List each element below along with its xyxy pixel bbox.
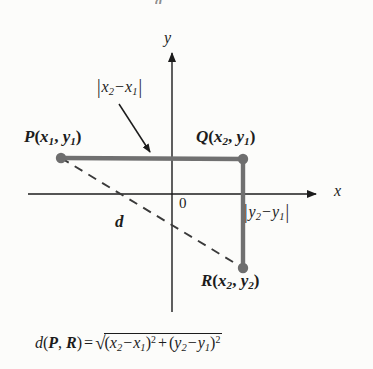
formula-d: d <box>35 334 43 351</box>
point-p-name: P <box>24 127 34 146</box>
y-axis-label: y <box>164 30 171 46</box>
point-marker-q <box>238 154 248 164</box>
point-label-q: Q(x2, y1) <box>196 128 255 147</box>
hypotenuse-dashed-segment <box>61 158 243 268</box>
point-marker-p <box>56 153 66 163</box>
delta-x-right-bar: | <box>137 77 143 97</box>
delta-x-minus: − <box>114 78 125 95</box>
coordinate-diagram <box>0 0 373 369</box>
formula-comma: , <box>58 334 66 351</box>
point-r-close-paren: ) <box>254 271 260 290</box>
formula-r: R <box>66 334 77 351</box>
formula-p: P <box>48 334 58 351</box>
delta-x-label: |x2−x1| <box>96 78 143 98</box>
delta-y-right-bar: | <box>284 202 290 222</box>
point-label-r: R(x2, y2) <box>201 272 259 291</box>
point-label-p: P(x1, y1) <box>24 128 82 147</box>
point-p-x-var: x <box>40 127 49 146</box>
delta-x-leader-arrow <box>119 104 150 152</box>
term2-first-sub: 2 <box>181 342 186 353</box>
term1-minus: − <box>122 334 133 351</box>
point-q-y-var: y <box>237 127 245 146</box>
delta-x-first-var: x <box>102 78 109 95</box>
origin-label: 0 <box>179 196 187 211</box>
point-r-x-var: x <box>218 271 227 290</box>
distance-formula-figure: g y x 0 <box>0 0 373 369</box>
point-q-comma: , <box>228 127 237 146</box>
delta-y-label: |y2−y1| <box>243 203 290 223</box>
term2-exponent: 2 <box>215 334 220 345</box>
formula-radicand: (x2−x1)2+(y2−y1)2 <box>104 333 223 353</box>
delta-y-first-var: y <box>249 203 256 220</box>
point-p-comma: , <box>54 127 63 146</box>
delta-y-left-bar: | <box>243 202 249 222</box>
formula-equals: = <box>82 334 95 351</box>
term2-minus: − <box>187 334 198 351</box>
delta-x-left-bar: | <box>96 77 102 97</box>
hypotenuse-label-d: d <box>115 213 124 230</box>
point-r-comma: , <box>232 271 241 290</box>
point-p-close-paren: ) <box>76 127 82 146</box>
point-r-name: R <box>201 271 212 290</box>
point-q-close-paren: ) <box>250 127 256 146</box>
point-q-name: Q <box>196 127 208 146</box>
term2-second-var: y <box>198 334 205 351</box>
delta-y-minus: − <box>261 203 272 220</box>
distance-formula: d(P, R)=√(x2−x1)2+(y2−y1)2 <box>35 332 222 354</box>
x-axis-label: x <box>334 183 341 199</box>
term1-first-var: x <box>110 334 117 351</box>
horizontal-leg-segment <box>61 158 243 159</box>
formula-plus: + <box>156 334 169 351</box>
